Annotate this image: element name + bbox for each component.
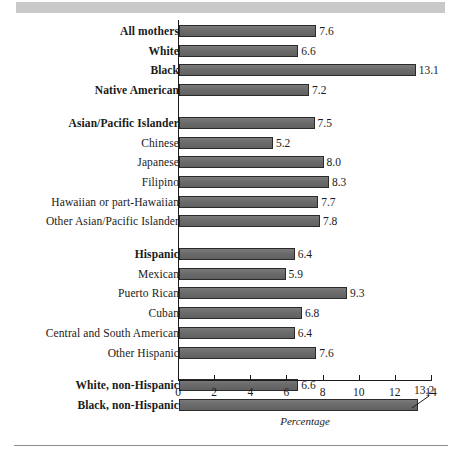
category-label: Japanese bbox=[0, 154, 179, 170]
bar bbox=[179, 248, 295, 260]
x-tick bbox=[323, 375, 324, 380]
category-label: Black bbox=[0, 62, 179, 78]
bar bbox=[179, 307, 302, 319]
category-label: Native American bbox=[0, 82, 179, 98]
bar-row: Filipino8.3 bbox=[0, 174, 462, 194]
x-axis-title: Percentage bbox=[178, 415, 432, 427]
bar-value-label: 7.2 bbox=[312, 82, 326, 98]
bar-row: Hawaiian or part-Hawaiian7.7 bbox=[0, 194, 462, 214]
bar-row: Other Asian/Pacific Islander7.8 bbox=[0, 213, 462, 233]
bar-row: Asian/Pacific Islander7.5 bbox=[0, 115, 462, 135]
x-tick bbox=[214, 375, 215, 380]
bar-value-label: 5.2 bbox=[276, 135, 290, 151]
bar bbox=[179, 327, 295, 339]
category-label: Chinese bbox=[0, 135, 179, 151]
x-axis-line bbox=[178, 380, 432, 381]
category-label: White, non-Hispanic bbox=[0, 377, 179, 393]
bar-value-label: 7.8 bbox=[323, 213, 337, 229]
bar bbox=[179, 215, 320, 227]
footer-divider bbox=[14, 445, 448, 446]
x-tick-label: 10 bbox=[344, 386, 374, 398]
x-tick-label: 8 bbox=[308, 386, 338, 398]
category-label: Cuban bbox=[0, 305, 179, 321]
bar-row: Native American7.2 bbox=[0, 82, 462, 102]
bar-row: Cuban6.8 bbox=[0, 305, 462, 325]
bar-row: Hispanic6.4 bbox=[0, 246, 462, 266]
bar-value-label: 7.5 bbox=[318, 115, 332, 131]
x-tick bbox=[178, 375, 179, 380]
bar bbox=[179, 156, 324, 168]
bar-value-label: 8.0 bbox=[327, 154, 341, 170]
category-label: Asian/Pacific Islander bbox=[0, 115, 179, 131]
bar-row: Black13.1 bbox=[0, 62, 462, 82]
category-label: White bbox=[0, 43, 179, 59]
bar bbox=[179, 64, 416, 76]
bar bbox=[179, 196, 318, 208]
bar-row: Chinese5.2 bbox=[0, 135, 462, 155]
bar-value-label: 7.7 bbox=[321, 194, 335, 210]
x-tick-label: 2 bbox=[199, 386, 229, 398]
bar-value-label: 6.6 bbox=[301, 43, 315, 59]
y-axis-line bbox=[178, 20, 179, 381]
bar-row: White6.6 bbox=[0, 43, 462, 63]
x-tick bbox=[286, 375, 287, 380]
callout-leader-line bbox=[410, 395, 430, 409]
category-label: Filipino bbox=[0, 174, 179, 190]
bar bbox=[179, 176, 329, 188]
x-tick-label: 12 bbox=[380, 386, 410, 398]
x-tick-label: 6 bbox=[271, 386, 301, 398]
bar bbox=[179, 25, 316, 37]
bar bbox=[179, 137, 273, 149]
category-label: Other Asian/Pacific Islander bbox=[0, 213, 179, 229]
category-label: All mothers bbox=[0, 23, 179, 39]
bar-value-label: 8.3 bbox=[332, 174, 346, 190]
category-label: Mexican bbox=[0, 266, 179, 282]
bar-row: All mothers7.6 bbox=[0, 23, 462, 43]
category-label: Hispanic bbox=[0, 246, 179, 262]
horizontal-bar-chart: All mothers7.6White6.6Black13.1Native Am… bbox=[0, 0, 462, 463]
bar bbox=[179, 399, 418, 411]
bar-row: Other Hispanic7.6 bbox=[0, 345, 462, 365]
bar-row: Japanese8.0 bbox=[0, 154, 462, 174]
bar-value-label: 6.4 bbox=[298, 246, 312, 262]
bar-value-label: 6.8 bbox=[305, 305, 319, 321]
bar-value-label: 7.6 bbox=[319, 345, 333, 361]
category-label: Hawaiian or part-Hawaiian bbox=[0, 194, 179, 210]
x-tick bbox=[250, 375, 251, 380]
bar-row: Central and South American6.4 bbox=[0, 325, 462, 345]
bar-row: Puerto Rican9.3 bbox=[0, 285, 462, 305]
bar-row: Mexican5.9 bbox=[0, 266, 462, 286]
bar-value-label: 5.9 bbox=[289, 266, 303, 282]
bar bbox=[179, 84, 309, 96]
bar bbox=[179, 287, 347, 299]
bar bbox=[179, 268, 286, 280]
bar-value-label: 6.4 bbox=[298, 325, 312, 341]
x-tick-label: 4 bbox=[235, 386, 265, 398]
category-label: Other Hispanic bbox=[0, 345, 179, 361]
x-tick bbox=[359, 375, 360, 380]
bar bbox=[179, 117, 315, 129]
bar-row: Black, non-Hispanic bbox=[0, 397, 462, 417]
bar bbox=[179, 347, 316, 359]
category-label: Central and South American bbox=[0, 325, 179, 341]
x-tick bbox=[395, 375, 396, 380]
category-label: Puerto Rican bbox=[0, 285, 179, 301]
bar-value-label: 7.6 bbox=[319, 23, 333, 39]
x-tick bbox=[431, 375, 432, 380]
bar-value-label: 9.3 bbox=[350, 285, 364, 301]
x-tick-label: 0 bbox=[163, 386, 193, 398]
bar bbox=[179, 45, 298, 57]
bar-value-label: 13.1 bbox=[419, 62, 439, 78]
category-label: Black, non-Hispanic bbox=[0, 397, 179, 413]
